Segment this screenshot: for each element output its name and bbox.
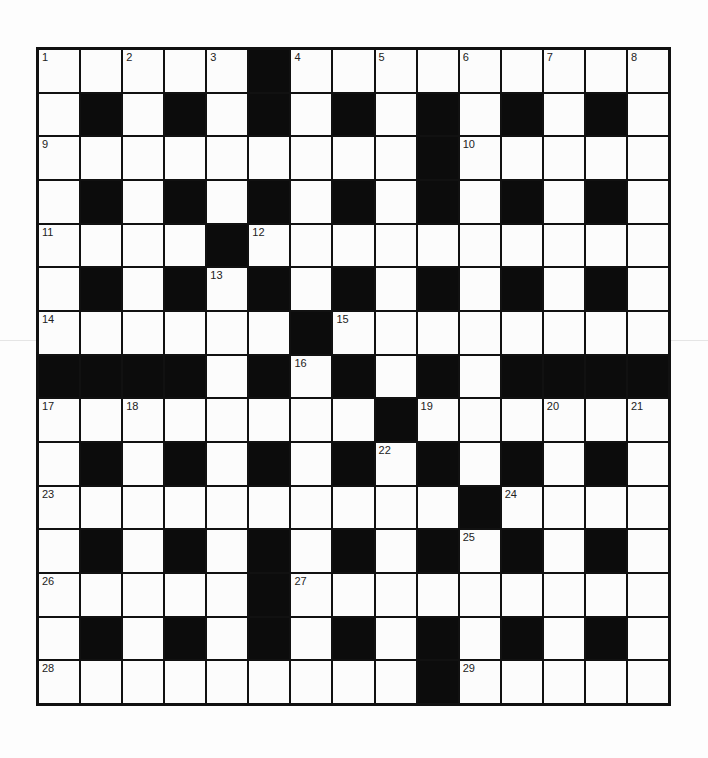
answer-cell[interactable]	[249, 137, 289, 179]
answer-cell[interactable]: 12	[249, 225, 289, 267]
answer-cell[interactable]	[123, 268, 163, 310]
answer-cell[interactable]	[376, 268, 416, 310]
answer-cell[interactable]	[628, 530, 668, 572]
answer-cell[interactable]	[39, 181, 79, 223]
answer-cell[interactable]	[460, 268, 500, 310]
answer-cell[interactable]	[207, 399, 247, 441]
answer-cell[interactable]: 2	[123, 50, 163, 92]
answer-cell[interactable]	[376, 574, 416, 616]
answer-cell[interactable]	[418, 225, 458, 267]
answer-cell[interactable]	[418, 574, 458, 616]
answer-cell[interactable]	[628, 574, 668, 616]
answer-cell[interactable]	[81, 399, 121, 441]
answer-cell[interactable]	[249, 487, 289, 529]
answer-cell[interactable]	[123, 487, 163, 529]
answer-cell[interactable]	[628, 618, 668, 660]
answer-cell[interactable]	[628, 181, 668, 223]
answer-cell[interactable]	[502, 399, 542, 441]
answer-cell[interactable]	[81, 50, 121, 92]
answer-cell[interactable]	[81, 574, 121, 616]
answer-cell[interactable]	[502, 661, 542, 703]
answer-cell[interactable]	[39, 94, 79, 136]
answer-cell[interactable]	[460, 181, 500, 223]
answer-cell[interactable]: 13	[207, 268, 247, 310]
answer-cell[interactable]	[81, 312, 121, 354]
answer-cell[interactable]	[333, 574, 373, 616]
answer-cell[interactable]	[165, 50, 205, 92]
answer-cell[interactable]	[460, 399, 500, 441]
answer-cell[interactable]	[544, 618, 584, 660]
answer-cell[interactable]	[502, 137, 542, 179]
answer-cell[interactable]	[123, 94, 163, 136]
answer-cell[interactable]: 17	[39, 399, 79, 441]
answer-cell[interactable]	[291, 443, 331, 485]
answer-cell[interactable]	[376, 312, 416, 354]
answer-cell[interactable]	[544, 661, 584, 703]
answer-cell[interactable]	[502, 50, 542, 92]
answer-cell[interactable]	[586, 50, 626, 92]
answer-cell[interactable]	[207, 137, 247, 179]
answer-cell[interactable]	[418, 312, 458, 354]
answer-cell[interactable]	[81, 661, 121, 703]
answer-cell[interactable]: 14	[39, 312, 79, 354]
answer-cell[interactable]: 23	[39, 487, 79, 529]
answer-cell[interactable]	[123, 137, 163, 179]
answer-cell[interactable]	[628, 94, 668, 136]
answer-cell[interactable]	[376, 94, 416, 136]
answer-cell[interactable]	[376, 487, 416, 529]
answer-cell[interactable]	[333, 487, 373, 529]
answer-cell[interactable]	[376, 530, 416, 572]
answer-cell[interactable]	[333, 225, 373, 267]
answer-cell[interactable]	[81, 137, 121, 179]
answer-cell[interactable]	[376, 137, 416, 179]
answer-cell[interactable]: 5	[376, 50, 416, 92]
answer-cell[interactable]	[460, 618, 500, 660]
answer-cell[interactable]	[207, 661, 247, 703]
answer-cell[interactable]	[165, 225, 205, 267]
answer-cell[interactable]	[207, 487, 247, 529]
answer-cell[interactable]	[628, 487, 668, 529]
answer-cell[interactable]	[586, 399, 626, 441]
answer-cell[interactable]: 26	[39, 574, 79, 616]
answer-cell[interactable]: 16	[291, 356, 331, 398]
answer-cell[interactable]	[123, 225, 163, 267]
answer-cell[interactable]	[333, 137, 373, 179]
answer-cell[interactable]	[333, 399, 373, 441]
answer-cell[interactable]	[544, 574, 584, 616]
answer-cell[interactable]	[81, 487, 121, 529]
answer-cell[interactable]	[586, 661, 626, 703]
answer-cell[interactable]	[502, 574, 542, 616]
answer-cell[interactable]	[291, 618, 331, 660]
answer-cell[interactable]	[39, 443, 79, 485]
answer-cell[interactable]: 6	[460, 50, 500, 92]
answer-cell[interactable]	[544, 225, 584, 267]
answer-cell[interactable]: 10	[460, 137, 500, 179]
answer-cell[interactable]	[207, 312, 247, 354]
answer-cell[interactable]: 28	[39, 661, 79, 703]
answer-cell[interactable]	[544, 94, 584, 136]
answer-cell[interactable]	[291, 487, 331, 529]
answer-cell[interactable]: 21	[628, 399, 668, 441]
answer-cell[interactable]	[39, 268, 79, 310]
answer-cell[interactable]	[586, 225, 626, 267]
answer-cell[interactable]	[586, 574, 626, 616]
answer-cell[interactable]	[376, 225, 416, 267]
answer-cell[interactable]	[628, 137, 668, 179]
answer-cell[interactable]	[291, 181, 331, 223]
answer-cell[interactable]	[460, 94, 500, 136]
answer-cell[interactable]	[291, 225, 331, 267]
answer-cell[interactable]	[207, 94, 247, 136]
answer-cell[interactable]: 8	[628, 50, 668, 92]
answer-cell[interactable]	[460, 574, 500, 616]
answer-cell[interactable]	[123, 530, 163, 572]
answer-cell[interactable]	[460, 356, 500, 398]
answer-cell[interactable]	[207, 181, 247, 223]
answer-cell[interactable]: 19	[418, 399, 458, 441]
answer-cell[interactable]	[123, 181, 163, 223]
answer-cell[interactable]	[628, 661, 668, 703]
answer-cell[interactable]	[249, 399, 289, 441]
answer-cell[interactable]: 20	[544, 399, 584, 441]
answer-cell[interactable]: 11	[39, 225, 79, 267]
answer-cell[interactable]	[291, 530, 331, 572]
answer-cell[interactable]	[586, 487, 626, 529]
